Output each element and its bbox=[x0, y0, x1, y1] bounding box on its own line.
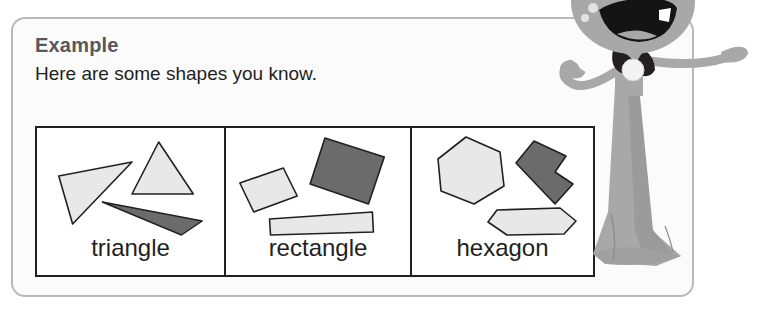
rectangle-light-long bbox=[270, 212, 374, 235]
triangle-dark-thin bbox=[102, 202, 202, 235]
shape-cell-hexagon: hexagon bbox=[412, 128, 593, 275]
triangle-shapes-art bbox=[37, 128, 224, 236]
rectangle-light-small bbox=[240, 168, 297, 212]
shape-label-triangle: triangle bbox=[37, 234, 224, 262]
mascot-cheek-highlight-1 bbox=[588, 3, 598, 13]
triangle-light-upright bbox=[132, 142, 193, 194]
shape-cell-rectangle: rectangle bbox=[226, 128, 412, 275]
screenshot-root: Example Here are some shapes you know. t… bbox=[0, 0, 757, 310]
rectangle-shapes-art bbox=[226, 128, 410, 236]
hexagon-dark-concave bbox=[516, 141, 573, 204]
triangle-light-left bbox=[59, 162, 132, 224]
hexagon-light-regular bbox=[438, 137, 504, 204]
mascot-right-hand bbox=[721, 47, 748, 63]
example-panel: Example Here are some shapes you know. t… bbox=[11, 17, 694, 297]
page-subtitle: Here are some shapes you know. bbox=[35, 63, 317, 85]
shape-cell-triangle: triangle bbox=[37, 128, 226, 275]
rectangle-dark-large bbox=[310, 138, 384, 204]
shape-label-rectangle: rectangle bbox=[226, 234, 410, 262]
shape-label-hexagon: hexagon bbox=[412, 234, 593, 262]
shape-table: triangle rectangle bbox=[35, 126, 595, 277]
hexagon-light-flat bbox=[488, 208, 576, 235]
page-title: Example bbox=[35, 34, 119, 57]
hexagon-shapes-art bbox=[412, 128, 593, 236]
